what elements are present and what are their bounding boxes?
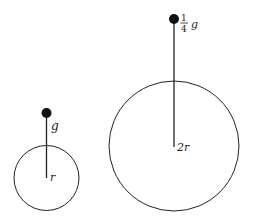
small-object-label: g [51, 119, 59, 133]
small-planet-radius-label: r [50, 171, 56, 184]
small-planet-group: g r [14, 108, 79, 211]
small-object-dot [42, 108, 52, 118]
large-object-fraction-denominator: 4 [181, 24, 187, 34]
large-object-fraction-numerator: 1 [181, 13, 187, 23]
large-planet-group: 1 4 g 2r [109, 13, 239, 211]
large-object-label-g: g [191, 18, 198, 31]
large-object-dot [169, 14, 179, 24]
gravity-diagram: g r 1 4 g 2r [0, 0, 255, 224]
large-planet-radius-label: 2r [176, 141, 190, 154]
